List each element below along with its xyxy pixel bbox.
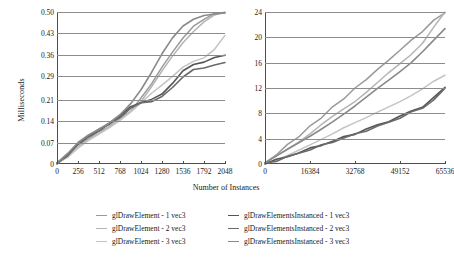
x-tick-label: 512 (93, 167, 104, 176)
legend-item[interactable]: glDrawElementsInstanced - 3 vec3 (228, 235, 393, 248)
x-tick-labels-left: 025651276810241280153617922048 (57, 167, 225, 179)
legend-line-swatch (96, 215, 107, 216)
legend-line-swatch (228, 228, 239, 229)
y-tick-label: 0.21 (41, 96, 54, 105)
series-lines-left (57, 12, 225, 164)
x-tick-mark (162, 161, 163, 164)
x-axis-title: Number of Instances (0, 183, 452, 192)
gridline (265, 63, 445, 64)
x-tick-label: 0 (263, 167, 267, 176)
legend-item-label: glDrawElement - 3 vec3 (112, 235, 186, 248)
legend-column-0: glDrawElement - 1 vec3glDrawElement - 2 … (96, 209, 226, 248)
x-tick-label: 768 (114, 167, 125, 176)
series-line (265, 29, 445, 163)
y-tick-label: 8 (258, 109, 262, 118)
y-tick-label: 4 (258, 134, 262, 143)
x-tick-mark (120, 161, 121, 164)
gridline (57, 55, 225, 56)
x-tick-mark (99, 161, 100, 164)
y-tick-label: 12 (255, 84, 263, 93)
x-tick-mark (310, 161, 311, 164)
gridline (265, 12, 445, 13)
x-tick-mark (265, 161, 266, 164)
gridline (57, 121, 225, 122)
x-tick-label: 32768 (346, 167, 365, 176)
legend-item-label: glDrawElementsInstanced - 3 vec3 (244, 235, 349, 248)
gridline (265, 113, 445, 114)
x-tick-mark (183, 161, 184, 164)
gridline (57, 12, 225, 13)
y-axis-title-label: Milliseconds (17, 78, 26, 122)
y-tick-label: 0.43 (41, 29, 54, 38)
x-tick-mark (78, 161, 79, 164)
gridline (265, 88, 445, 89)
y-tick-label: 20 (255, 33, 263, 42)
x-tick-mark (445, 161, 446, 164)
legend-line-swatch (228, 241, 239, 242)
legend-item-label: glDrawElementsInstanced - 2 vec3 (244, 222, 349, 235)
x-tick-mark (204, 161, 205, 164)
plot-area-right (265, 12, 445, 164)
gridline (57, 76, 225, 77)
x-tick-label: 1280 (155, 167, 170, 176)
gridline (57, 100, 225, 101)
x-tick-mark (225, 161, 226, 164)
x-tick-label: 65536 (436, 167, 454, 176)
y-tick-label: 0.50 (41, 8, 54, 17)
legend-column-1: glDrawElementsInstanced - 1 vec3glDrawEl… (228, 209, 393, 248)
y-tick-labels-right: 04812162024 (236, 12, 262, 164)
y-tick-label: 24 (255, 8, 263, 17)
x-tick-label: 256 (72, 167, 83, 176)
legend-item[interactable]: glDrawElement - 1 vec3 (96, 209, 226, 222)
y-axis-title-left: Milliseconds (14, 40, 28, 160)
plot-area-left (57, 12, 225, 164)
y-tick-label: 0 (258, 160, 262, 169)
x-tick-labels-right: 016384327684915265536 (265, 167, 445, 179)
legend-item[interactable]: glDrawElementsInstanced - 2 vec3 (228, 222, 393, 235)
series-line (265, 88, 445, 163)
x-tick-label: 2048 (218, 167, 233, 176)
x-tick-label: 1536 (176, 167, 191, 176)
charts-row: Milliseconds 00.070.140.210.290.360.430.… (0, 0, 452, 200)
gridline (265, 37, 445, 38)
legend-line-swatch (228, 215, 239, 216)
x-tick-label: 16384 (301, 167, 320, 176)
gridline (57, 33, 225, 34)
y-tick-labels-left: 00.070.140.210.290.360.430.50 (28, 12, 54, 164)
legend-line-swatch (96, 228, 107, 229)
legend-line-swatch (96, 241, 107, 242)
legend-item[interactable]: glDrawElementsInstanced - 1 vec3 (228, 209, 393, 222)
gridline (57, 143, 225, 144)
y-tick-label: 0.36 (41, 50, 54, 59)
x-tick-mark (141, 161, 142, 164)
legend-item-label: glDrawElementsInstanced - 1 vec3 (244, 209, 349, 222)
legend-item[interactable]: glDrawElement - 2 vec3 (96, 222, 226, 235)
x-tick-label: 1024 (134, 167, 149, 176)
legend-item-label: glDrawElement - 2 vec3 (112, 222, 186, 235)
y-tick-label: 0 (50, 160, 54, 169)
series-line (57, 13, 225, 163)
chart-legend: glDrawElement - 1 vec3glDrawElement - 2 … (0, 209, 452, 255)
gridline (265, 139, 445, 140)
x-tick-label: 0 (55, 167, 59, 176)
x-tick-mark (57, 161, 58, 164)
chart-panel-left: Milliseconds 00.070.140.210.290.360.430.… (0, 0, 232, 200)
x-tick-label: 1792 (197, 167, 212, 176)
x-tick-mark (355, 161, 356, 164)
y-tick-label: 0.07 (41, 138, 54, 147)
x-tick-label: 49152 (391, 167, 410, 176)
legend-item-label: glDrawElement - 1 vec3 (112, 209, 186, 222)
chart-panel-right: 04812162024 016384327684915265536 (232, 0, 452, 200)
y-tick-label: 16 (255, 58, 263, 67)
x-tick-mark (400, 161, 401, 164)
legend-item[interactable]: glDrawElement - 3 vec3 (96, 235, 226, 248)
series-line (57, 55, 225, 164)
series-line (57, 63, 225, 163)
y-tick-label: 0.14 (41, 117, 54, 126)
y-tick-label: 0.29 (41, 71, 54, 80)
